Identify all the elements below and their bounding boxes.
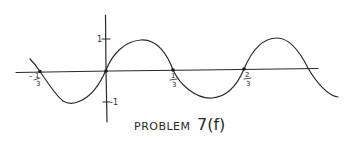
svg-text:3: 3 — [246, 80, 250, 88]
svg-text:2: 2 — [245, 71, 249, 79]
y-label-1: 1 — [97, 35, 102, 44]
x-label-neg-one-third: - 1 3 — [29, 72, 40, 88]
function-graph: 1 -1 - 1 3 1 3 2 3 PROBLEM 7(f) — [0, 0, 354, 145]
x-label-two-thirds: 2 3 — [244, 71, 251, 88]
caption-problem: PROBLEM — [134, 120, 191, 133]
svg-text:-: - — [29, 72, 32, 81]
svg-text:1: 1 — [171, 72, 175, 80]
y-label-neg1: -1 — [110, 98, 118, 107]
caption-number: 7(f) — [197, 115, 225, 134]
point-origin — [104, 69, 108, 73]
svg-text:3: 3 — [172, 81, 176, 89]
svg-text:3: 3 — [36, 80, 40, 88]
x-axis — [16, 69, 318, 73]
